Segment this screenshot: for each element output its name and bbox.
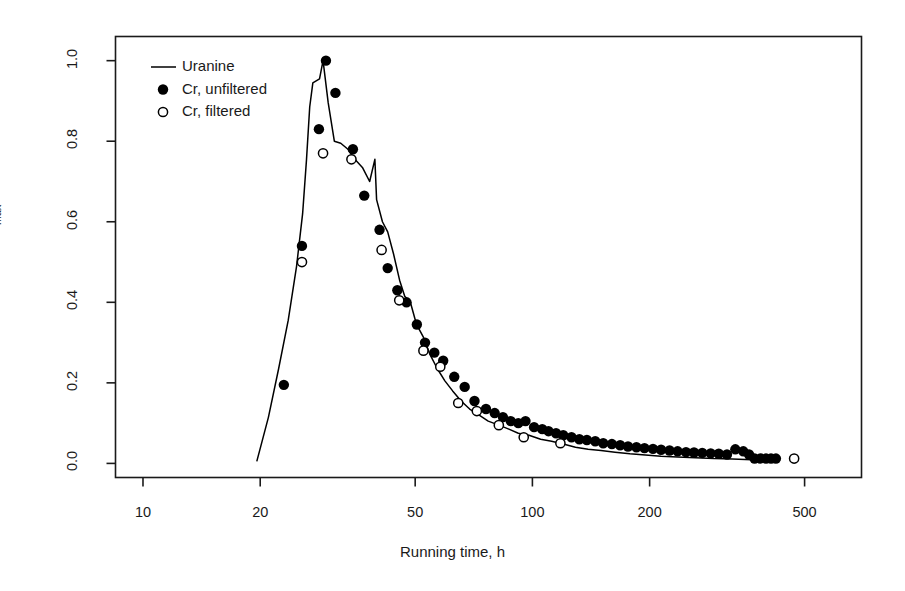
chart-figure: C/Cmax Running time, h 102050100200500 0… bbox=[0, 0, 905, 591]
x-tick-label: 200 bbox=[620, 504, 680, 520]
legend-markers bbox=[151, 67, 176, 117]
y-tick-label: 0.6 bbox=[64, 200, 80, 240]
y-axis-label-base: C/C bbox=[0, 225, 1, 251]
x-tick-label: 50 bbox=[385, 504, 445, 520]
x-tick-label: 100 bbox=[502, 504, 562, 520]
y-axis-label: C/Cmax bbox=[0, 168, 1, 288]
x-tick-label: 500 bbox=[775, 504, 835, 520]
y-tick-label: 0.8 bbox=[64, 119, 80, 159]
plot-canvas bbox=[0, 0, 905, 591]
series-markers bbox=[279, 55, 799, 463]
y-tick-label: 1.0 bbox=[64, 39, 80, 79]
x-tick-label: 10 bbox=[113, 504, 173, 520]
axis-ticks bbox=[107, 61, 805, 487]
legend-entry-label: Cr, unfiltered bbox=[182, 80, 267, 97]
legend-entry-label: Cr, filtered bbox=[182, 102, 250, 119]
y-tick-label: 0.4 bbox=[64, 280, 80, 320]
y-axis-label-subscript: max bbox=[0, 205, 3, 225]
x-tick-label: 20 bbox=[230, 504, 290, 520]
x-axis-label: Running time, h bbox=[0, 543, 905, 560]
series-uranine-line bbox=[257, 61, 771, 462]
y-tick-label: 0.0 bbox=[64, 441, 80, 481]
legend-entry-label: Uranine bbox=[182, 57, 235, 74]
y-tick-label: 0.2 bbox=[64, 361, 80, 401]
